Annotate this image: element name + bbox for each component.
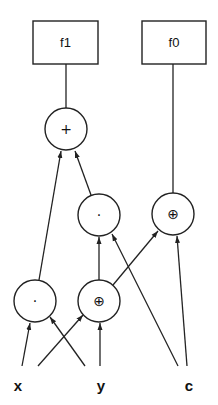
- and-dot-icon: ·: [97, 207, 101, 223]
- input-label-y: y: [97, 377, 106, 394]
- and-dot-icon: ·: [33, 293, 37, 309]
- edge-c-to-xorright: [177, 236, 187, 366]
- add-icon: +: [60, 121, 72, 137]
- edge-x-to-andlow: [22, 323, 30, 366]
- input-label-x: x: [14, 377, 23, 394]
- node-and-low: ·: [14, 280, 56, 322]
- node-add: +: [45, 108, 87, 150]
- node-and-mid: ·: [78, 194, 120, 236]
- output-box-f1: f1: [33, 21, 98, 64]
- node-xor-right: ⊕: [152, 193, 194, 235]
- node-xor-low: ⊕: [78, 280, 120, 322]
- input-label-c: c: [185, 377, 193, 394]
- output-label-f0: f0: [169, 35, 180, 50]
- edge-andmid-to-add: [75, 151, 91, 195]
- output-box-f0: f0: [142, 21, 206, 64]
- expression-diagram: f1 f0 + · ⊕ · ⊕ x y c: [0, 0, 218, 405]
- edge-xorlow-to-xorright: [113, 231, 158, 285]
- edge-y-to-andlow: [50, 317, 85, 366]
- output-label-f1: f1: [60, 35, 71, 50]
- edge-andlow-to-add: [39, 151, 61, 280]
- edge-c-to-andmid: [112, 234, 178, 366]
- edge-x-to-xorlow: [38, 315, 83, 366]
- xor-icon: ⊕: [167, 206, 179, 222]
- xor-icon: ⊕: [93, 293, 105, 309]
